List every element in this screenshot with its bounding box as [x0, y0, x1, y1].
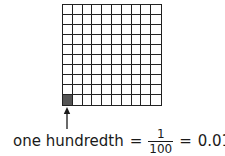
grid-cell: [92, 35, 102, 45]
grid-cell: [63, 5, 73, 15]
grid-cell: [73, 5, 83, 15]
grid-cell: [92, 15, 102, 25]
grid-cell: [151, 75, 161, 85]
grid-cell: [73, 45, 83, 55]
grid-cell: [112, 95, 122, 105]
grid-cell: [122, 5, 132, 15]
grid-cell: [63, 75, 73, 85]
grid-cell: [102, 25, 112, 35]
grid-cell: [151, 95, 161, 105]
grid-cell: [122, 45, 132, 55]
grid-cell: [132, 35, 142, 45]
arrow-up-icon: [62, 107, 72, 129]
grid-cell: [63, 35, 73, 45]
grid-cell: [92, 45, 102, 55]
grid-cell: [83, 95, 93, 105]
grid-cell: [132, 85, 142, 95]
grid-cell: [73, 25, 83, 35]
grid-cell: [141, 95, 151, 105]
grid-cell: [132, 75, 142, 85]
grid-cell: [73, 75, 83, 85]
grid-cell: [83, 75, 93, 85]
grid-cell: [141, 65, 151, 75]
grid-cell: [141, 75, 151, 85]
equals-sign: =: [179, 132, 192, 150]
grid-cell: [141, 25, 151, 35]
grid-cell: [141, 55, 151, 65]
grid-cell: [83, 85, 93, 95]
grid-cell: [83, 15, 93, 25]
label-text: one hundredth: [13, 132, 124, 150]
fraction-numerator: 1: [155, 128, 167, 140]
grid-cell: [63, 55, 73, 65]
grid-cell: [141, 85, 151, 95]
grid-cell: [92, 85, 102, 95]
grid-cell: [83, 35, 93, 45]
grid-cell: [122, 65, 132, 75]
grid-cell: [73, 95, 83, 105]
grid-cell: [141, 35, 151, 45]
grid-cell: [102, 95, 112, 105]
grid-cell: [63, 45, 73, 55]
grid-cell: [102, 55, 112, 65]
fraction-denominator: 100: [148, 143, 173, 155]
grid-cell: [132, 15, 142, 25]
grid-cell: [73, 35, 83, 45]
grid-cell: [151, 5, 161, 15]
grid-cell: [132, 95, 142, 105]
grid-cell: [151, 55, 161, 65]
grid-cell: [73, 65, 83, 75]
grid-cell: [102, 15, 112, 25]
grid-cell: [112, 25, 122, 35]
grid-cell: [151, 25, 161, 35]
grid-cell: [102, 75, 112, 85]
grid-cell: [102, 5, 112, 15]
grid-cell: [151, 15, 161, 25]
grid-cell: [73, 85, 83, 95]
grid-cell: [112, 55, 122, 65]
grid-cell: [112, 85, 122, 95]
grid-cell: [122, 85, 132, 95]
grid-cell: [141, 5, 151, 15]
grid-cell: [102, 45, 112, 55]
grid-cell: [132, 5, 142, 15]
grid-cell: [132, 55, 142, 65]
grid-cell: [112, 75, 122, 85]
grid-cell: [102, 65, 112, 75]
grid-cell: [83, 45, 93, 55]
grid-cell: [122, 15, 132, 25]
fraction: 1 100: [148, 128, 173, 155]
grid-cell: [73, 55, 83, 65]
grid-cell: [92, 95, 102, 105]
grid-cell: [151, 35, 161, 45]
grid-cell: [141, 15, 151, 25]
hundredths-grid: [62, 4, 162, 106]
grid-cell: [132, 45, 142, 55]
grid-cell: [83, 5, 93, 15]
grid-cell: [112, 5, 122, 15]
grid-cell: [122, 35, 132, 45]
hundredth-equation: one hundredth = 1 100 = 0.01: [13, 128, 225, 154]
grid-cell: [122, 25, 132, 35]
grid-cell: [151, 65, 161, 75]
grid-cell: [122, 75, 132, 85]
grid-cell: [132, 25, 142, 35]
grid-cell: [92, 25, 102, 35]
grid-cell: [83, 25, 93, 35]
grid-cell: [83, 55, 93, 65]
grid-cell: [63, 25, 73, 35]
grid-cell: [112, 35, 122, 45]
grid-cell: [83, 65, 93, 75]
grid-cell: [112, 45, 122, 55]
grid-cell: [92, 55, 102, 65]
grid-cell: [151, 45, 161, 55]
grid-cell: [92, 65, 102, 75]
grid-cell: [102, 35, 112, 45]
grid-cell: [141, 45, 151, 55]
grid-cell: [92, 75, 102, 85]
grid-cell: [132, 65, 142, 75]
grid-cell: [112, 65, 122, 75]
grid-cell: [63, 15, 73, 25]
grid-cell: [102, 85, 112, 95]
grid-cell: [122, 55, 132, 65]
